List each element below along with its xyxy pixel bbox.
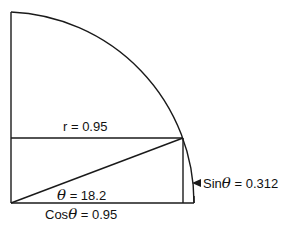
theta-label: θ = 18.2 [57, 188, 106, 203]
radius-label: r = 0.95 [63, 120, 107, 133]
theta-symbol: θ [222, 174, 231, 192]
sin-prefix: Sin [203, 176, 222, 191]
cos-prefix: Cos [45, 207, 68, 222]
quadrant-diagram [0, 0, 298, 228]
cosine-label: Cosθ = 0.95 [45, 207, 117, 222]
sine-label: Sinθ = 0.312 [203, 176, 278, 191]
quarter-arc [11, 12, 194, 203]
theta-symbol: θ [57, 186, 66, 204]
sin-value: = 0.312 [234, 176, 278, 191]
theta-value: = 18.2 [70, 188, 107, 203]
cos-value: = 0.95 [81, 207, 118, 222]
theta-symbol: θ [68, 205, 77, 223]
